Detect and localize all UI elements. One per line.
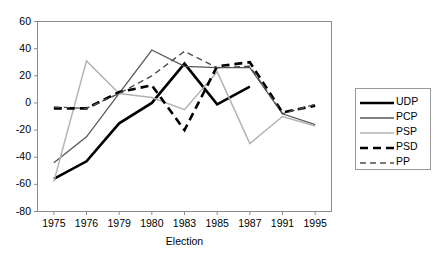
legend-label-psp: PSP [395,125,417,137]
y-tick-label: 20 [1,70,31,80]
legend-swatch-psp [359,125,395,137]
y-tick-label: 0 [1,97,31,107]
y-tick-label: -60 [1,178,31,188]
y-tick-label: 60 [1,16,31,26]
plot-frame [38,22,332,212]
series-layer [54,50,315,182]
legend-item-psp[interactable]: PSP [359,123,427,138]
legend-item-pcp[interactable]: PCP [359,108,427,123]
legend-swatch-udp [359,95,395,107]
y-tick-label: -20 [1,124,31,134]
legend-label-psd: PSD [395,140,418,152]
legend-label-pp: PP [395,155,410,167]
chart-figure: 6040200-20-40-60-80 19751976197919801983… [0,0,439,259]
legend-label-pcp: PCP [395,110,418,122]
y-tick-label: -40 [1,151,31,161]
series-line-udp [54,64,250,179]
legend-swatch-pp [359,155,395,167]
series-line-psp [54,61,315,182]
x-tick-label: 1995 [295,218,335,229]
y-tick-label: 40 [1,43,31,53]
series-line-psd [54,62,315,130]
legend-item-psd[interactable]: PSD [359,138,427,153]
legend-swatch-psd [359,140,395,152]
legend-label-udp: UDP [395,95,418,107]
y-tick-label: -80 [1,206,31,216]
legend-swatch-pcp [359,110,395,122]
x-axis-title: Election [125,235,245,247]
legend: UDPPCPPSPPSDPP [355,88,431,170]
legend-item-pp[interactable]: PP [359,153,427,168]
axis-ticks [34,22,315,216]
legend-item-udp[interactable]: UDP [359,93,427,108]
